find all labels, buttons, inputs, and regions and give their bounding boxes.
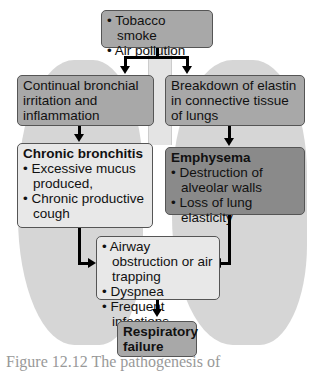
causes-box: Tobacco smoke Air pollution: [101, 10, 213, 48]
connector: [124, 56, 127, 66]
connector: [220, 262, 231, 265]
connector: [78, 228, 81, 265]
emphysema-item: Loss of lung elasticity: [171, 195, 299, 225]
arrow-right-icon: [88, 258, 96, 268]
copd-diagram: Tobacco smoke Air pollution Continual br…: [0, 0, 319, 371]
arrow-down-icon: [182, 66, 192, 74]
outcome-text: Respiratory failure: [123, 324, 191, 354]
effect-item: Dyspnea: [102, 284, 214, 299]
outcome-box: Respiratory failure: [117, 321, 197, 357]
right-mechanism-text: Breakdown of elastin in connective tissu…: [171, 78, 299, 123]
arrow-down-icon: [152, 309, 162, 317]
effects-box: Airway obstruction or air trapping Dyspn…: [96, 236, 220, 300]
left-mechanism-text: Continual bronchial irritation and infla…: [23, 78, 148, 123]
bronchitis-item: Excessive mucus produced,: [23, 161, 147, 191]
chronic-bronchitis-box: Chronic bronchitis Excessive mucus produ…: [17, 143, 153, 228]
chronic-bronchitis-title: Chronic bronchitis: [23, 146, 147, 161]
arrow-down-icon: [74, 134, 84, 142]
connector: [228, 215, 231, 265]
connector: [186, 56, 189, 66]
connector: [124, 56, 189, 59]
arrow-down-icon: [224, 138, 234, 146]
connector: [228, 126, 231, 138]
left-mechanism-box: Continual bronchial irritation and infla…: [17, 75, 154, 126]
emphysema-item: Destruction of alveolar walls: [171, 165, 299, 195]
figure-caption: Figure 12.12 The pathogenesis of: [6, 353, 220, 371]
connector: [78, 126, 81, 134]
emphysema-title: Emphysema: [171, 150, 299, 165]
connector: [156, 300, 159, 309]
effect-item: Airway obstruction or air trapping: [102, 239, 214, 284]
cause-item: Tobacco smoke: [107, 13, 207, 43]
emphysema-box: Emphysema Destruction of alveolar walls …: [165, 147, 305, 215]
right-mechanism-box: Breakdown of elastin in connective tissu…: [165, 75, 305, 126]
bronchitis-item: Chronic productive cough: [23, 191, 147, 221]
arrow-down-icon: [120, 66, 130, 74]
